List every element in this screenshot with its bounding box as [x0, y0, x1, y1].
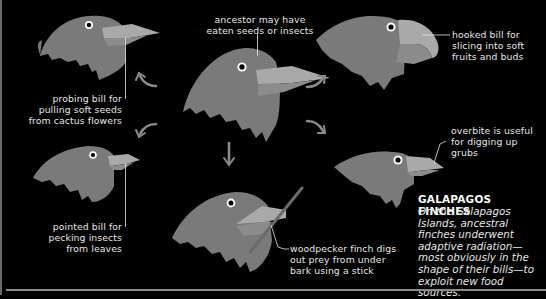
- caption-line: eaten seeds or insects: [198, 25, 322, 36]
- hooked-finch-icon: [316, 16, 439, 90]
- bottom-divider: [6, 289, 546, 291]
- caption-woodpecker: woodpecker finch digs out prey from unde…: [290, 243, 410, 276]
- caption-line: pecking insects: [20, 232, 122, 243]
- probing-finch-icon: [38, 16, 160, 80]
- caption-line: from cactus flowers: [20, 115, 122, 126]
- caption-line: slicing into soft: [452, 40, 546, 51]
- caption-line: from leaves: [20, 243, 122, 254]
- arrow-down-left-icon: [136, 124, 156, 137]
- pointed-finch-icon: [33, 146, 140, 202]
- caption-pointed: pointed bill for pecking insects from le…: [20, 221, 122, 254]
- caption-probing: probing bill for pulling soft seeds from…: [20, 93, 122, 126]
- caption-line: for digging up grubs: [451, 136, 546, 158]
- caption-line: fruits and buds: [452, 51, 546, 62]
- caption-line: pulling soft seeds: [20, 104, 122, 115]
- arrow-down-right-icon: [307, 121, 325, 133]
- ancestor-finch-icon: [183, 48, 330, 142]
- caption-line: out prey from under: [290, 254, 410, 265]
- caption-line: bark using a stick: [290, 265, 410, 276]
- caption-line: ancestor may have: [198, 14, 322, 25]
- caption-line: overbite is useful: [451, 125, 546, 136]
- caption-line: pointed bill for: [20, 221, 122, 232]
- caption-line: hooked bill for: [452, 29, 546, 40]
- caption-line: woodpecker finch digs: [290, 243, 410, 254]
- sidebar-body: On the Galapagos Islands, ancestral finc…: [418, 206, 546, 299]
- arrow-up-left-icon: [136, 73, 156, 86]
- caption-ancestor: ancestor may have eaten seeds or insects: [198, 14, 322, 36]
- arrow-down-icon: [224, 143, 234, 165]
- caption-hooked: hooked bill for slicing into soft fruits…: [452, 29, 546, 62]
- woodpecker-finch-icon: [172, 188, 302, 272]
- caption-overbite: overbite is useful for digging up grubs: [451, 125, 546, 158]
- caption-line: probing bill for: [20, 93, 122, 104]
